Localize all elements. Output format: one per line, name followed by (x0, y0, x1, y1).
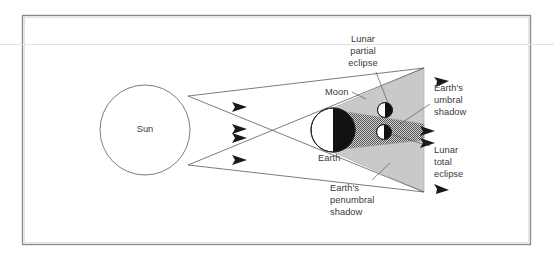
figure-root: Lunar partial eclipse Moon Earth Earth's… (0, 0, 554, 260)
moon-total-eclipse-body (377, 125, 392, 140)
label-earths-penumbral-shadow: Earth's penumbral shadow (330, 183, 374, 218)
label-earths-umbral-shadow: Earth's umbral shadow (434, 83, 466, 118)
eclipse-diagram-svg (0, 0, 554, 260)
earth-body (311, 108, 355, 152)
label-earth: Earth (318, 153, 340, 165)
label-lunar-total-eclipse: Lunar total eclipse (434, 145, 463, 180)
label-sun: Sun (127, 124, 163, 136)
label-lunar-partial-eclipse: Lunar partial eclipse (337, 34, 389, 69)
label-moon: Moon (325, 87, 348, 99)
figure-border (23, 16, 531, 245)
moon-partial-eclipse-body (378, 103, 393, 118)
